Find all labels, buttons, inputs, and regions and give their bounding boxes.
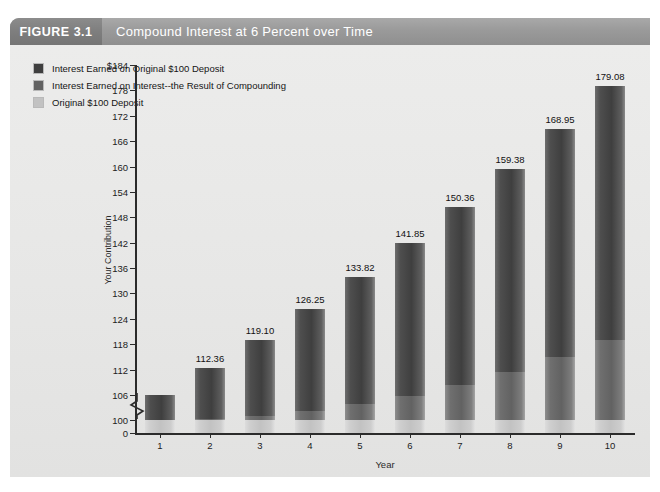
x-axis-tick-label: 6 [407, 440, 412, 451]
bar-segment-principal [195, 420, 225, 433]
bar-segment-interest-on-principal [445, 207, 475, 385]
bar-group-year-7[interactable]: 150.367 [445, 207, 475, 433]
bar-group-year-10[interactable]: 179.0810 [595, 86, 625, 433]
legend-swatch-icon [33, 80, 44, 91]
bar-segment-interest-on-interest [445, 385, 475, 420]
x-axis-tick-label: 7 [457, 440, 462, 451]
x-axis-tick [210, 433, 211, 438]
y-axis-tick-label: $184 [80, 60, 128, 71]
x-axis-tick [160, 433, 161, 438]
bar-segment-principal [345, 420, 375, 433]
x-axis-tick-label: 5 [357, 440, 362, 451]
stacked-bar[interactable]: 112.36 [195, 368, 225, 433]
bar-group-year-3[interactable]: 119.103 [245, 340, 275, 433]
x-axis-tick-label: 2 [207, 440, 212, 451]
bar-segment-interest-on-principal [395, 243, 425, 395]
x-axis-tick-label: 8 [507, 440, 512, 451]
bar-segment-principal [145, 420, 175, 433]
bar-value-label: 133.82 [345, 262, 374, 273]
y-axis-tick-label: 166 [80, 136, 128, 147]
x-axis-tick [460, 433, 461, 438]
bar-segment-principal [545, 420, 575, 433]
figure-header: FIGURE 3.1 Compound Interest at 6 Percen… [10, 18, 650, 45]
stacked-bar[interactable]: 141.85 [395, 243, 425, 433]
bar-segment-interest-on-principal [195, 368, 225, 419]
legend-item-label: Original $100 Deposit [52, 97, 143, 108]
x-axis-tick-label: 3 [257, 440, 262, 451]
bar-segment-principal [595, 420, 625, 433]
y-axis-tick-label: 172 [80, 110, 128, 121]
bar-segment-interest-on-interest [395, 396, 425, 421]
x-axis-tick [310, 433, 311, 438]
x-axis-title: Year [135, 459, 635, 470]
y-axis-tick-label: 100 [80, 415, 128, 426]
y-axis-tick-label: 112 [80, 364, 128, 375]
bar-segment-interest-on-interest [345, 404, 375, 420]
y-axis-tick-label: 124 [80, 313, 128, 324]
stacked-bar[interactable]: 168.95 [545, 129, 575, 433]
bar-group-year-2[interactable]: 112.362 [195, 368, 225, 433]
stacked-bar[interactable]: 119.10 [245, 340, 275, 433]
x-axis-tick [360, 433, 361, 438]
x-axis-tick [560, 433, 561, 438]
figure-title: Compound Interest at 6 Percent over Time [102, 18, 650, 45]
stacked-bar[interactable]: 179.08 [595, 86, 625, 433]
y-axis-tick [130, 433, 136, 434]
y-axis-tick-label: 160 [80, 161, 128, 172]
x-axis-tick-label: 4 [307, 440, 312, 451]
y-axis-tick-label: 154 [80, 186, 128, 197]
bar-segment-interest-on-principal [545, 129, 575, 357]
legend-swatch-icon [33, 63, 44, 74]
bar-group-year-6[interactable]: 141.856 [395, 243, 425, 433]
chart-panel: Interest Earned on Original $100 Deposit… [10, 45, 650, 477]
bar-value-label: 179.08 [595, 71, 624, 82]
bar-segment-interest-on-principal [295, 309, 325, 411]
bar-value-label: 119.10 [246, 325, 274, 336]
x-axis-tick [610, 433, 611, 438]
bar-value-label: 126.25 [295, 294, 324, 305]
y-axis-tick-label: 106 [80, 389, 128, 400]
x-axis-tick-label: 1 [157, 440, 162, 451]
y-axis-tick-label: 0 [80, 428, 128, 439]
y-axis-tick-label: 130 [80, 288, 128, 299]
bar-value-label: 159.38 [495, 154, 524, 165]
bar-value-label: 150.36 [445, 192, 474, 203]
legend-swatch-icon [33, 97, 44, 108]
bar-segment-interest-on-principal [345, 277, 375, 404]
bar-segment-interest-on-principal [145, 395, 175, 420]
stacked-bar[interactable]: 126.25 [295, 309, 325, 433]
stacked-bar[interactable]: 159.38 [495, 169, 525, 433]
figure-number-tag: FIGURE 3.1 [10, 18, 102, 45]
bar-value-label: 168.95 [545, 114, 574, 125]
x-axis-tick-label: 10 [605, 440, 616, 451]
bar-group-year-1[interactable]: 106.001 [145, 395, 175, 433]
bar-group-year-4[interactable]: 126.254 [295, 309, 325, 433]
x-axis-tick [260, 433, 261, 438]
bar-segment-principal [395, 420, 425, 433]
y-axis-title: Your Contribution [103, 215, 113, 284]
bar-segment-interest-on-principal [595, 86, 625, 340]
figure-container: FIGURE 3.1 Compound Interest at 6 Percen… [0, 0, 660, 492]
x-axis-tick [510, 433, 511, 438]
bar-segment-principal [245, 420, 275, 433]
stacked-bar[interactable]: 150.36 [445, 207, 475, 433]
bar-segment-interest-on-principal [245, 340, 275, 416]
x-axis-tick-label: 9 [557, 440, 562, 451]
bar-segment-interest-on-interest [595, 340, 625, 421]
y-axis-tick-label: 118 [80, 339, 128, 350]
bar-group-year-5[interactable]: 133.825 [345, 277, 375, 433]
stacked-bar[interactable]: 133.82 [345, 277, 375, 433]
x-axis-tick [410, 433, 411, 438]
bar-segment-principal [445, 420, 475, 433]
bar-segment-principal [495, 420, 525, 433]
y-axis-tick-label: 178 [80, 85, 128, 96]
bar-segment-interest-on-interest [495, 372, 525, 420]
stacked-bar[interactable]: 106.00 [145, 395, 175, 433]
bar-segment-interest-on-interest [545, 357, 575, 420]
bar-series-group: 106.001112.362119.103126.254133.825141.8… [135, 65, 635, 433]
bar-value-label: 112.36 [196, 353, 224, 364]
bar-value-label: 141.85 [395, 228, 424, 239]
bar-group-year-8[interactable]: 159.388 [495, 169, 525, 433]
bar-segment-interest-on-principal [495, 169, 525, 372]
bar-group-year-9[interactable]: 168.959 [545, 129, 575, 433]
